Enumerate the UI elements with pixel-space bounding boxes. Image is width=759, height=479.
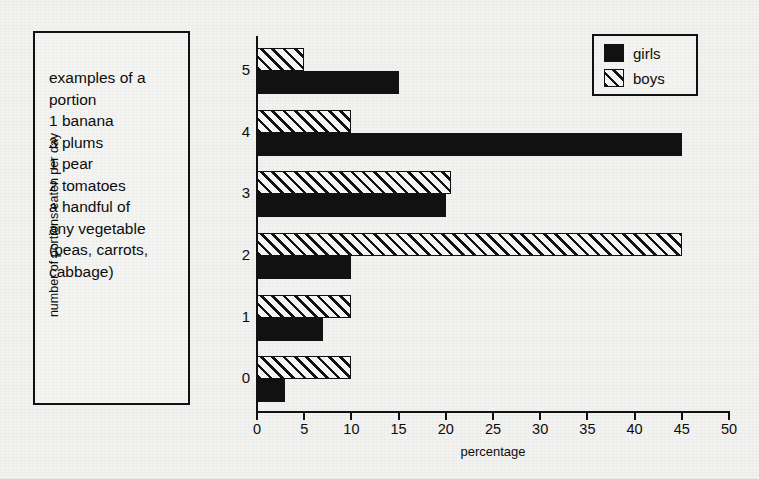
bar-girls xyxy=(257,256,351,279)
x-axis-tick xyxy=(492,413,494,420)
bar-girls xyxy=(257,379,285,402)
y-axis-category-label: 5 xyxy=(228,61,250,78)
x-axis-tick xyxy=(256,413,258,420)
x-axis-tick-label: 50 xyxy=(709,421,749,437)
y-axis-title: number of portions eaten per day xyxy=(47,90,61,360)
bar-girls xyxy=(257,71,399,94)
x-axis-tick xyxy=(728,413,730,420)
x-axis-tick xyxy=(681,413,683,420)
bar-girls xyxy=(257,194,446,217)
legend-item-boys: boys xyxy=(604,69,665,87)
x-axis-tick-label: 35 xyxy=(567,421,607,437)
x-axis-tick xyxy=(445,413,447,420)
bar-girls xyxy=(257,133,682,156)
bar-boys xyxy=(257,233,682,256)
y-axis-category-label: 1 xyxy=(228,308,250,325)
x-axis-title: percentage xyxy=(256,444,730,459)
y-axis-category-label: 0 xyxy=(228,369,250,386)
x-axis-tick xyxy=(350,413,352,420)
chart-legend: girls boys xyxy=(592,34,698,96)
x-axis-tick-label: 0 xyxy=(237,421,277,437)
bar-boys xyxy=(257,171,451,194)
legend-swatch-boys-icon xyxy=(604,69,624,87)
x-axis-tick xyxy=(398,413,400,420)
legend-item-girls: girls xyxy=(604,44,661,62)
x-axis-tick xyxy=(634,413,636,420)
x-axis-tick xyxy=(303,413,305,420)
x-axis-tick-label: 45 xyxy=(662,421,702,437)
x-axis-tick-label: 10 xyxy=(331,421,371,437)
x-axis-tick-label: 25 xyxy=(473,421,513,437)
x-axis-tick xyxy=(539,413,541,420)
legend-swatch-girls-icon xyxy=(604,44,624,62)
y-axis-category-label: 2 xyxy=(228,246,250,263)
bar-boys xyxy=(257,110,351,133)
x-axis-tick-label: 15 xyxy=(379,421,419,437)
x-axis-tick-label: 20 xyxy=(426,421,466,437)
x-axis-tick-label: 40 xyxy=(615,421,655,437)
legend-label-girls: girls xyxy=(633,45,661,62)
y-axis-category-label: 3 xyxy=(228,184,250,201)
x-axis-tick xyxy=(586,413,588,420)
bar-girls xyxy=(257,318,323,341)
bar-boys xyxy=(257,295,351,318)
x-axis-tick-label: 5 xyxy=(284,421,324,437)
bar-boys xyxy=(257,356,351,379)
x-axis-tick-label: 30 xyxy=(520,421,560,437)
legend-label-boys: boys xyxy=(633,70,665,87)
bar-boys xyxy=(257,48,304,71)
y-axis-category-label: 4 xyxy=(228,123,250,140)
